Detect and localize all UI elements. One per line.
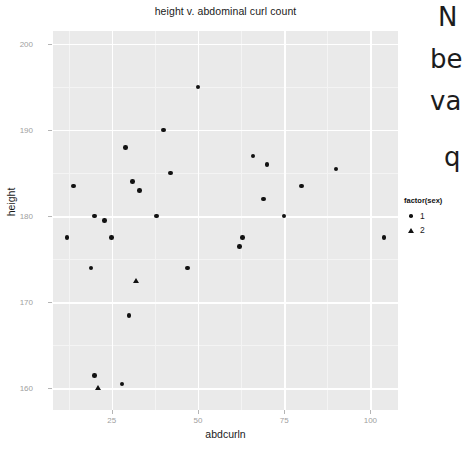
circle-marker-icon xyxy=(404,209,418,223)
side-text-line: be xyxy=(430,44,462,74)
data-point xyxy=(334,167,339,172)
gridline-minor-horizontal xyxy=(53,87,398,88)
gridline-minor-horizontal xyxy=(53,345,398,346)
data-point xyxy=(89,266,94,271)
adjacent-page-text: Nbevaq xyxy=(404,0,462,190)
gridline-major-vertical xyxy=(284,31,285,410)
data-point xyxy=(196,85,201,90)
legend-entry[interactable]: 1 xyxy=(404,209,462,223)
x-axis-title: abdcurln xyxy=(53,428,398,440)
x-tick-label: 50 xyxy=(193,416,202,425)
legend-title: factor(sex) xyxy=(404,196,462,205)
gridline-major-horizontal xyxy=(53,302,398,303)
data-point xyxy=(154,214,159,219)
y-tick-label: 200 xyxy=(20,39,33,48)
chart-title: height v. abdominal curl count xyxy=(53,5,398,17)
legend-entry-label: 2 xyxy=(418,225,425,235)
data-point xyxy=(168,171,173,176)
x-tickmark xyxy=(284,410,285,414)
screenshot-root: height v. abdominal curl count 200190180… xyxy=(0,0,462,450)
data-point xyxy=(265,162,270,167)
gridline-major-vertical xyxy=(370,31,371,410)
data-point xyxy=(299,184,304,189)
side-text-line: va xyxy=(430,86,461,116)
y-tickmark xyxy=(48,44,52,45)
y-tickmark xyxy=(48,388,52,389)
data-point xyxy=(120,382,125,387)
gridline-minor-horizontal xyxy=(53,259,398,260)
gridline-minor-vertical xyxy=(327,31,328,410)
data-point xyxy=(92,214,97,219)
x-tick-label: 75 xyxy=(280,416,289,425)
gridline-major-horizontal xyxy=(53,130,398,131)
data-point xyxy=(282,214,287,219)
data-point xyxy=(102,218,107,223)
data-point xyxy=(92,373,97,378)
y-tickmark xyxy=(48,130,52,131)
data-point xyxy=(261,197,266,202)
side-text-line: N xyxy=(438,2,457,32)
gridline-minor-vertical xyxy=(69,31,70,410)
data-point xyxy=(240,235,245,240)
gridline-major-horizontal xyxy=(53,388,398,389)
gridline-major-horizontal xyxy=(53,44,398,45)
data-point xyxy=(130,179,135,184)
x-tickmark xyxy=(112,410,113,414)
side-text-line: q xyxy=(444,142,461,172)
data-point xyxy=(65,235,70,240)
legend-entry-label: 1 xyxy=(418,211,425,221)
y-tick-label: 160 xyxy=(20,384,33,393)
y-axis-title: height xyxy=(5,167,17,237)
gridline-major-vertical xyxy=(112,31,113,410)
gridline-minor-horizontal xyxy=(53,173,398,174)
y-tick-label: 190 xyxy=(20,126,33,135)
plot-panel xyxy=(53,31,398,410)
data-point xyxy=(237,244,242,249)
data-point xyxy=(161,128,166,133)
data-point xyxy=(127,313,132,318)
x-tickmark xyxy=(370,410,371,414)
data-point xyxy=(185,266,190,271)
legend-entries: 12 xyxy=(404,209,462,237)
gridline-minor-vertical xyxy=(241,31,242,410)
y-tick-label: 180 xyxy=(20,212,33,221)
data-point xyxy=(123,145,128,150)
y-tick-label: 170 xyxy=(20,298,33,307)
data-point xyxy=(109,235,114,240)
data-point xyxy=(71,184,76,189)
data-point xyxy=(133,278,139,283)
data-point xyxy=(95,385,101,390)
y-tickmark xyxy=(48,216,52,217)
gridline-minor-vertical xyxy=(155,31,156,410)
data-point xyxy=(137,188,142,193)
y-tickmark xyxy=(48,302,52,303)
legend: factor(sex) 12 xyxy=(404,196,462,237)
x-tickmark xyxy=(198,410,199,414)
data-point xyxy=(251,154,256,159)
data-point xyxy=(382,235,387,240)
x-tick-label: 25 xyxy=(107,416,116,425)
triangle-marker-icon xyxy=(404,223,418,237)
x-tick-label: 100 xyxy=(364,416,377,425)
legend-entry[interactable]: 2 xyxy=(404,223,462,237)
